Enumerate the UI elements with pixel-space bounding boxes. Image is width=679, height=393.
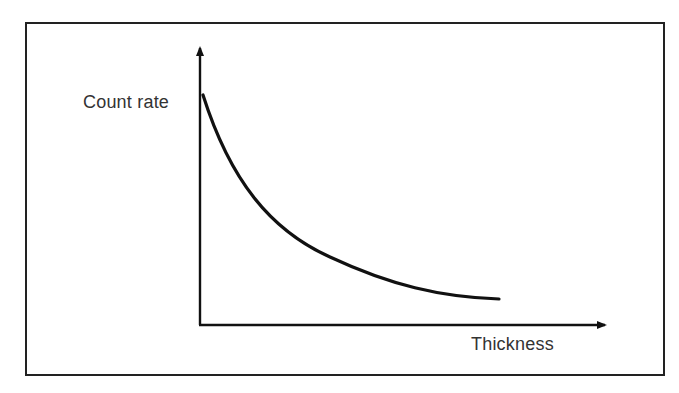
x-axis-label: Thickness xyxy=(471,334,554,355)
y-axis-label: Count rate xyxy=(83,92,169,113)
plot-area xyxy=(0,0,679,393)
decay-curve xyxy=(203,95,499,299)
